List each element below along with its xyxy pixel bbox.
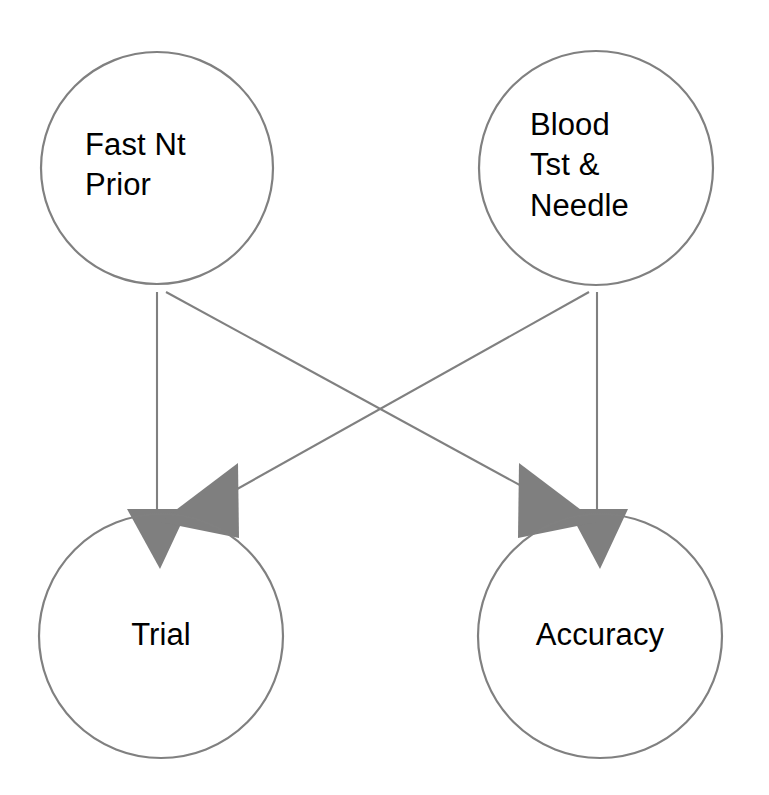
node-circle-accuracy[interactable]: [478, 514, 722, 758]
node-circle-fast-nt-prior[interactable]: [41, 52, 273, 284]
node-circle-trial[interactable]: [39, 514, 283, 758]
diagram-graphics: [0, 0, 769, 795]
diagram-canvas: Fast Nt Prior Blood Tst & Needle Trial A…: [0, 0, 769, 795]
node-circle-blood-tst-needle[interactable]: [479, 51, 713, 285]
